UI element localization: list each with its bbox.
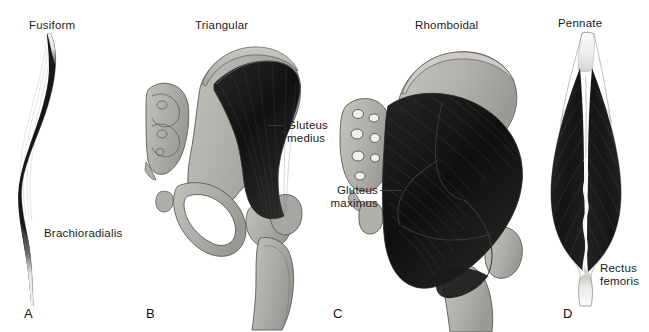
gluteus-medius-leader-line [268, 125, 284, 126]
panel-d-letter: D [563, 306, 572, 321]
callout-rectus-femoris-line-2: femoris [600, 275, 639, 288]
callout-gluteus-maximus: Gluteus maximus [315, 184, 378, 210]
callout-brachioradialis-line-1: Brachioradialis [44, 227, 122, 240]
panel-c-letter: C [333, 306, 342, 321]
callout-gluteus-medius-line-2: medius [287, 132, 328, 145]
rhomboidal-muscle-illustration [330, 0, 530, 332]
callout-rectus-femoris-line-1: Rectus [600, 262, 639, 275]
muscle-shapes-figure: Fusiform [0, 0, 649, 332]
fusiform-muscle-illustration [0, 0, 140, 332]
callout-gluteus-maximus-line-1: Gluteus [315, 184, 378, 197]
panel-a-letter: A [24, 306, 33, 321]
panel-a-fusiform: Fusiform [0, 0, 140, 332]
panel-b-triangular: Triangular [140, 0, 330, 332]
callout-gluteus-maximus-line-2: maximus [315, 197, 378, 210]
triangular-muscle-illustration [140, 0, 330, 332]
callout-gluteus-medius-line-1: Gluteus [287, 119, 328, 132]
panel-c-rhomboidal: Rhomboidal [330, 0, 530, 332]
callout-rectus-femoris: Rectus femoris [600, 262, 639, 288]
callout-gluteus-medius: Gluteus medius [287, 119, 328, 145]
gluteus-maximus-leader-line [380, 190, 402, 191]
panel-d-pennate: Pennate [530, 0, 649, 332]
panel-b-letter: B [146, 306, 155, 321]
callout-brachioradialis: Brachioradialis [44, 227, 122, 240]
